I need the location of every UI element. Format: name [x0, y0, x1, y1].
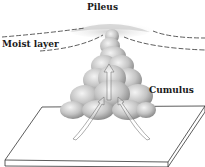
- pileus-label: Pileus: [87, 2, 118, 12]
- diagram-canvas: Pileus Moist layer Cumulus: [0, 0, 205, 167]
- cumulus-label: Cumulus: [149, 85, 194, 95]
- moist-layer-label: Moist layer: [2, 39, 59, 49]
